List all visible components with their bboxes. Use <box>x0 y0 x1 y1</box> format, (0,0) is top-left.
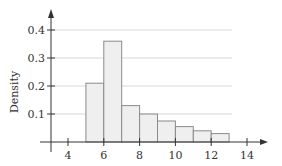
y-tick-label: 0.3 <box>28 52 46 65</box>
histogram-bar <box>211 134 229 142</box>
x-axis-arrow-icon <box>260 139 268 145</box>
histogram-bar <box>193 131 211 142</box>
histogram-chart: 468101214 0.10.20.30.4 Density <box>0 0 282 166</box>
y-axis-arrow-icon <box>48 9 54 18</box>
x-tick-label: 14 <box>240 149 254 162</box>
histogram-bar <box>86 83 104 142</box>
x-tick-label: 8 <box>136 149 143 162</box>
y-tick-label: 0.1 <box>28 108 46 121</box>
x-tick-label: 6 <box>100 149 107 162</box>
histogram-bar <box>140 114 158 142</box>
histogram-bar <box>104 41 122 142</box>
histogram-bars <box>86 41 229 142</box>
x-tick-label: 10 <box>168 149 182 162</box>
y-tick-label: 0.2 <box>28 80 46 93</box>
x-tick-label: 12 <box>204 149 218 162</box>
histogram-bar <box>122 106 140 142</box>
gridlines <box>51 30 232 114</box>
y-tick-label: 0.4 <box>28 24 46 37</box>
histogram-bar <box>175 127 193 142</box>
histogram-bar <box>158 121 176 142</box>
y-axis-label: Density <box>8 70 21 113</box>
x-tick-label: 4 <box>65 149 72 162</box>
